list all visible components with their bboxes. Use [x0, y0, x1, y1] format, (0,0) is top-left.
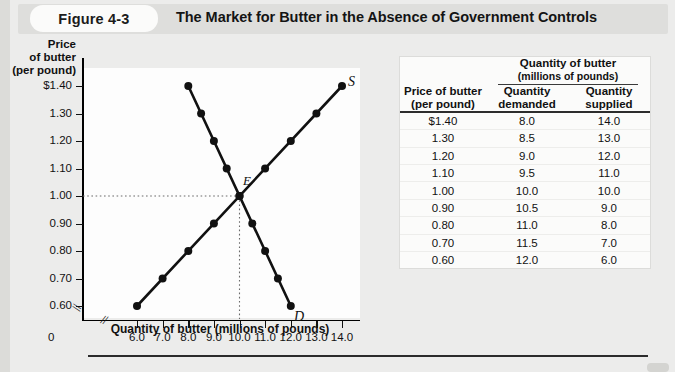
table-col-header-demanded-line1: Quantity — [486, 85, 568, 98]
curves-svg — [0, 34, 400, 344]
cell-price: 0.80 — [400, 217, 486, 234]
table-row: $1.40 8.0 14.0 — [400, 113, 650, 130]
supply-point — [184, 247, 192, 255]
table-col-header-price-line2: (per pound) — [400, 98, 486, 111]
supply-curve-label: S — [348, 74, 355, 90]
demand-point — [274, 275, 282, 283]
cell-price: 1.10 — [400, 165, 486, 182]
table-row: 0.80 11.0 8.0 — [400, 217, 650, 234]
figure-number-label: Figure 4-3 — [58, 11, 129, 27]
table-row: 0.70 11.5 7.0 — [400, 234, 650, 251]
table-group-header-line1: Quantity of butter — [486, 57, 650, 70]
figure-container: Figure 4-3 The Market for Butter in the … — [0, 0, 675, 372]
cell-price: 0.90 — [400, 199, 486, 216]
table-col-header-demanded: Quantity demanded — [486, 85, 568, 111]
cell-supplied: 9.0 — [568, 199, 650, 216]
table-col-header-supplied-line1: Quantity — [568, 85, 650, 98]
table-col-header-demanded-line2: demanded — [486, 98, 568, 111]
table-row: 0.60 12.0 6.0 — [400, 251, 650, 268]
cell-demanded: 8.5 — [486, 130, 568, 147]
cell-supplied: 8.0 — [568, 217, 650, 234]
table-col-header-supplied-line2: supplied — [568, 98, 650, 111]
equilibrium-point-label: E — [243, 173, 251, 189]
table-group-header-row: Quantity of butter (millions of pounds) — [400, 57, 650, 85]
figure-number-pill: Figure 4-3 — [30, 5, 158, 32]
cell-demanded: 9.0 — [486, 147, 568, 164]
footer-divider-rule — [88, 355, 648, 357]
supply-point — [261, 165, 269, 173]
cell-demanded: 9.5 — [486, 165, 568, 182]
demand-point — [223, 165, 231, 173]
table-row: 1.20 9.0 12.0 — [400, 147, 650, 164]
footer-corner-mark — [647, 363, 669, 372]
cell-supplied: 11.0 — [568, 165, 650, 182]
supply-point — [133, 302, 141, 310]
supply-point — [338, 82, 346, 90]
table-row: 0.90 10.5 9.0 — [400, 199, 650, 216]
supply-point — [312, 110, 320, 118]
cell-demanded: 11.5 — [486, 234, 568, 251]
cell-demanded: 8.0 — [486, 113, 568, 130]
table-group-header-line2: (millions of pounds) — [486, 70, 650, 83]
cell-price: 1.30 — [400, 130, 486, 147]
table-row: 1.10 9.5 11.0 — [400, 165, 650, 182]
cell-supplied: 12.0 — [568, 147, 650, 164]
cell-demanded: 10.5 — [486, 199, 568, 216]
cell-price: 0.70 — [400, 234, 486, 251]
supply-demand-table: Quantity of butter (millions of pounds) … — [399, 56, 651, 269]
demand-point — [210, 137, 218, 145]
cell-demanded: 12.0 — [486, 251, 568, 268]
cell-supplied: 10.0 — [568, 182, 650, 199]
cell-supplied: 7.0 — [568, 234, 650, 251]
cell-supplied: 13.0 — [568, 130, 650, 147]
cell-supplied: 14.0 — [568, 113, 650, 130]
figure-title: The Market for Butter in the Absence of … — [176, 9, 597, 25]
demand-point — [248, 220, 256, 228]
cell-demanded: 10.0 — [486, 182, 568, 199]
supply-point — [210, 220, 218, 228]
demand-point — [236, 192, 244, 200]
supply-point — [159, 275, 167, 283]
footer-cutoff-text — [88, 363, 648, 372]
table-col-header-price-line1: Price of butter — [400, 85, 486, 98]
cell-price: 1.00 — [400, 182, 486, 199]
cell-price: $1.40 — [400, 113, 486, 130]
demand-point — [197, 110, 205, 118]
demand-point — [184, 82, 192, 90]
demand-point — [261, 247, 269, 255]
table-column-header-row: Price of butter (per pound) Quantity dem… — [400, 85, 650, 111]
table-row: 1.30 8.5 13.0 — [400, 130, 650, 147]
cell-price: 1.20 — [400, 147, 486, 164]
cell-price: 0.60 — [400, 251, 486, 268]
chart-panel: Price of butter (per pound) $1.40 1.30 1… — [0, 34, 400, 344]
table-group-header: Quantity of butter (millions of pounds) — [486, 57, 650, 85]
cell-supplied: 6.0 — [568, 251, 650, 268]
supply-point — [287, 137, 295, 145]
table-col-header-price: Price of butter (per pound) — [400, 85, 486, 111]
x-axis-title: Quantity of butter (millions of pounds) — [70, 322, 370, 336]
table-row: 1.00 10.0 10.0 — [400, 182, 650, 199]
table-col-header-supplied: Quantity supplied — [568, 85, 650, 111]
cell-demanded: 11.0 — [486, 217, 568, 234]
